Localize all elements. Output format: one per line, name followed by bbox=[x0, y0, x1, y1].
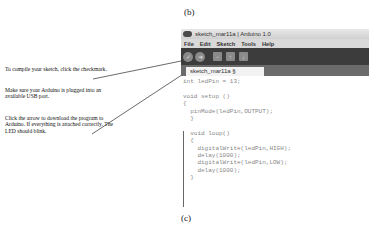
menu-help[interactable]: Help bbox=[262, 41, 274, 47]
window-title: sketch_mar11a | Arduino 1.0 bbox=[195, 31, 271, 37]
save-icon: ↓ bbox=[242, 54, 245, 60]
code-line: digitalWrite(ledPin,HIGH); bbox=[183, 145, 367, 152]
menu-tools[interactable]: Tools bbox=[241, 41, 256, 47]
menu-file[interactable]: File bbox=[184, 41, 194, 47]
code-line: delay(1000); bbox=[183, 152, 367, 159]
code-line: { bbox=[183, 100, 367, 107]
arduino-logo-icon bbox=[183, 31, 192, 37]
arrow-right-icon: ➜ bbox=[198, 53, 203, 60]
open-icon: ↑ bbox=[229, 54, 232, 60]
code-line: digitalWrite(ledPin,LOW); bbox=[183, 159, 367, 166]
upload-button[interactable]: ➜ bbox=[195, 52, 205, 62]
tab-bar: sketch_mar11a § bbox=[181, 65, 369, 76]
code-line: } bbox=[183, 115, 367, 122]
checkmark-icon: ✓ bbox=[186, 53, 191, 60]
menu-sketch[interactable]: Sketch bbox=[217, 41, 236, 47]
code-line: } bbox=[183, 174, 367, 181]
arduino-ide-window: sketch_mar11a | Arduino 1.0 File Edit Sk… bbox=[181, 29, 369, 184]
menu-edit[interactable]: Edit bbox=[200, 41, 211, 47]
toolbar: ✓ ➜ ▫ ↑ ↓ bbox=[181, 48, 369, 65]
code-line: void setup () bbox=[183, 93, 367, 100]
bracket-line bbox=[183, 131, 184, 207]
new-file-icon: ▫ bbox=[216, 54, 218, 60]
open-button[interactable]: ↑ bbox=[226, 52, 235, 61]
menu-bar: File Edit Sketch Tools Help bbox=[181, 39, 369, 48]
save-button[interactable]: ↓ bbox=[239, 52, 248, 61]
code-editor[interactable]: int ledPin = 13; void setup (){ pinMode(… bbox=[181, 76, 369, 184]
title-bar: sketch_mar11a | Arduino 1.0 bbox=[181, 29, 369, 39]
tab-sketch[interactable]: sketch_mar11a § bbox=[186, 67, 264, 76]
figure-label-c: (c) bbox=[181, 213, 191, 223]
new-button[interactable]: ▫ bbox=[213, 52, 222, 61]
verify-button[interactable]: ✓ bbox=[183, 52, 193, 62]
code-line: pinMode(ledPin,OUTPUT); bbox=[183, 108, 367, 115]
code-line bbox=[183, 85, 367, 92]
code-line: delay(1000); bbox=[183, 167, 367, 174]
code-line: void loop() bbox=[183, 130, 367, 137]
code-line: { bbox=[183, 137, 367, 144]
code-line: int ledPin = 13; bbox=[183, 78, 367, 85]
code-line bbox=[183, 122, 367, 129]
